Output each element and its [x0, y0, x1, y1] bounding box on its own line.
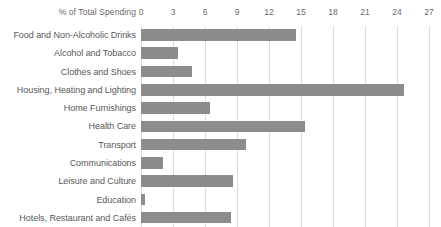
x-tick-label-12: 12	[264, 7, 273, 17]
bar	[141, 139, 246, 151]
x-tick-label-6: 6	[203, 7, 208, 17]
bar	[141, 29, 296, 41]
bar	[141, 66, 192, 78]
category-label: Home Furnishings	[64, 103, 136, 113]
x-tick-label-27: 27	[424, 7, 433, 17]
x-axis-tick-labels: 0369121518212427	[141, 7, 429, 18]
category-label-row: Transport	[0, 136, 136, 154]
category-label-row: Leisure and Culture	[0, 172, 136, 190]
category-label-column: Food and Non-Alcoholic DrinksAlcohol and…	[0, 26, 136, 227]
bar-row	[141, 63, 429, 81]
bar-row	[141, 26, 429, 44]
x-axis-title: % of Total Spending	[0, 7, 136, 17]
x-tick-label-0: 0	[139, 7, 144, 17]
bar	[141, 157, 163, 169]
category-label-row: Hotels, Restaurant and Cafés	[0, 209, 136, 227]
category-label: Health Care	[89, 121, 136, 131]
bar	[141, 47, 178, 59]
bar-row	[141, 117, 429, 135]
bar-row	[141, 190, 429, 208]
bar	[141, 212, 231, 224]
x-tick-label-3: 3	[171, 7, 176, 17]
bar-row	[141, 209, 429, 227]
x-tick-label-18: 18	[328, 7, 337, 17]
category-label-row: Clothes and Shoes	[0, 63, 136, 81]
category-label: Food and Non-Alcoholic Drinks	[13, 30, 136, 40]
category-label-row: Communications	[0, 154, 136, 172]
bar	[141, 121, 305, 133]
x-tick-label-15: 15	[296, 7, 305, 17]
category-label-row: Housing, Heating and Lighting	[0, 81, 136, 99]
bar	[141, 84, 404, 96]
category-label-row: Food and Non-Alcoholic Drinks	[0, 26, 136, 44]
x-tick-label-9: 9	[235, 7, 240, 17]
bar-chart: % of Total Spending 0369121518212427 Foo…	[0, 0, 441, 227]
gridline-27	[429, 26, 430, 227]
plot-area	[141, 26, 429, 227]
category-label: Alcohol and Tobacco	[54, 48, 136, 58]
bar-row	[141, 172, 429, 190]
category-label: Leisure and Culture	[58, 176, 136, 186]
category-label: Transport	[98, 140, 136, 150]
category-label-row: Health Care	[0, 117, 136, 135]
bar-row	[141, 99, 429, 117]
bar-row	[141, 81, 429, 99]
bar-rows	[141, 26, 429, 227]
category-label: Clothes and Shoes	[61, 67, 136, 77]
bar-row	[141, 154, 429, 172]
bar	[141, 102, 210, 114]
bar	[141, 194, 145, 206]
bar	[141, 175, 233, 187]
x-tick-label-21: 21	[360, 7, 369, 17]
bar-row	[141, 44, 429, 62]
category-label-row: Home Furnishings	[0, 99, 136, 117]
category-label-row: Education	[0, 190, 136, 208]
category-label: Communications	[70, 158, 136, 168]
category-label: Education	[96, 195, 136, 205]
category-label-row: Alcohol and Tobacco	[0, 44, 136, 62]
x-tick-label-24: 24	[392, 7, 401, 17]
category-label: Hotels, Restaurant and Cafés	[19, 213, 136, 223]
bar-row	[141, 136, 429, 154]
category-label: Housing, Heating and Lighting	[17, 85, 136, 95]
